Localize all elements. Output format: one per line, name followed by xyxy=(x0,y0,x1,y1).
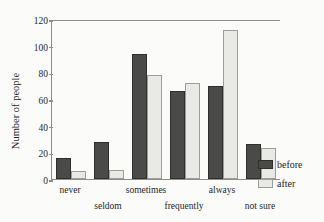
bar-before-always xyxy=(208,86,223,179)
legend: before after xyxy=(258,156,322,194)
y-tick-label: 80 xyxy=(12,68,52,80)
bar-after-sometimes xyxy=(147,75,162,179)
bar-before-never xyxy=(56,158,71,179)
y-tick-label: 100 xyxy=(12,42,52,54)
legend-label-before: before xyxy=(277,159,303,170)
bar-before-seldom xyxy=(94,142,109,179)
legend-item-before: before xyxy=(258,156,322,172)
chart-figure: Number of people 020406080100120 neverse… xyxy=(0,0,324,222)
bar-after-always xyxy=(223,30,238,179)
bar-after-frequently xyxy=(185,83,200,179)
legend-swatch-before-icon xyxy=(258,160,273,169)
bar-after-never xyxy=(71,171,86,179)
bar-groups xyxy=(52,21,280,179)
x-tick-label: always xyxy=(209,184,235,196)
y-tick-label: 0 xyxy=(12,175,52,187)
x-tick-label: never xyxy=(59,184,80,196)
bar-after-seldom xyxy=(109,170,124,179)
legend-item-after: after xyxy=(258,175,322,191)
x-tick-label: not sure xyxy=(245,200,275,212)
legend-label-after: after xyxy=(277,178,295,189)
y-tick-mark xyxy=(49,180,53,181)
y-tick-label: 40 xyxy=(12,122,52,134)
x-tick-label: sometimes xyxy=(126,184,167,196)
bar-before-frequently xyxy=(170,91,185,179)
legend-swatch-after-icon xyxy=(258,179,273,188)
x-tick-label: frequently xyxy=(164,200,203,212)
y-tick-label: 60 xyxy=(12,95,52,107)
bar-before-sometimes xyxy=(132,54,147,179)
y-tick-label: 120 xyxy=(12,15,52,27)
x-tick-label: seldom xyxy=(94,200,121,212)
y-tick-label: 20 xyxy=(12,148,52,160)
plot-area: 020406080100120 xyxy=(51,20,280,180)
